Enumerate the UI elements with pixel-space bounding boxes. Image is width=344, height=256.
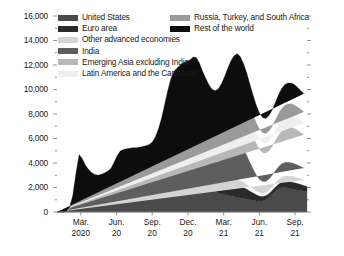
y-axis-tick-label: 12,000 — [14, 60, 48, 70]
y-axis-tick-label: 2,000 — [14, 182, 48, 192]
y-axis-tick-label: 0 — [14, 207, 48, 217]
area-series-group — [57, 54, 307, 212]
y-axis-tick-label: 16,000 — [14, 11, 48, 21]
y-axis-tick-label: 10,000 — [14, 84, 48, 94]
y-axis-tick-label: 4,000 — [14, 158, 48, 168]
chart-figure: United StatesEuro areaOther advanced eco… — [0, 0, 344, 256]
y-axis-tick-label: 14,000 — [14, 35, 48, 45]
x-axis-tick-label: Sep.21 — [273, 217, 317, 238]
y-axis-tick-label: 8,000 — [14, 109, 48, 119]
y-axis-tick-label: 6,000 — [14, 133, 48, 143]
